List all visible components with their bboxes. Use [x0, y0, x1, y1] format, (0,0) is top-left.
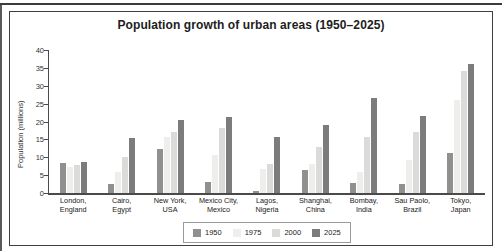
y-tick-mark: [44, 86, 48, 87]
bar-1950: [399, 184, 405, 193]
bar-1975: [212, 155, 218, 193]
bar-2025: [226, 117, 232, 194]
y-tick-label: 0: [22, 189, 44, 198]
y-tick-mark: [44, 193, 48, 194]
bar-group-shanghai-: [291, 48, 339, 193]
y-tick-label: 5: [22, 171, 44, 180]
x-axis-line: [48, 193, 485, 195]
legend-item-1975: 1975: [233, 228, 262, 237]
bar-2000: [316, 147, 322, 193]
bar-2000: [171, 132, 177, 193]
bar-1975: [115, 172, 121, 193]
bar-2025: [323, 125, 329, 193]
bar-2025: [81, 162, 87, 193]
bar-2000: [461, 71, 467, 193]
legend-label: 2025: [324, 228, 341, 237]
bar-group-sau-paolo-: [388, 48, 436, 193]
bar-group-lagos-: [243, 48, 291, 193]
bar-group-cairo-: [97, 48, 145, 193]
bar-1975: [67, 167, 73, 193]
bar-1950: [253, 191, 259, 193]
bar-2000: [122, 157, 128, 193]
category-label: Mexico City,Mexico: [194, 197, 242, 215]
category-label: Cairo,Egypt: [97, 197, 145, 215]
category-label: Bombay,India: [340, 197, 388, 215]
category-label: Sau Paolo,Brazil: [388, 197, 436, 215]
legend-swatch: [312, 229, 320, 237]
bar-group-mexico-city-: [194, 48, 242, 193]
bar-1950: [157, 149, 163, 193]
bar-1950: [350, 183, 356, 193]
bar-group-tokyo-: [437, 48, 485, 193]
bar-1950: [60, 163, 66, 193]
y-tick-label: 10: [22, 153, 44, 162]
bar-2000: [74, 165, 80, 193]
category-label: London,England: [49, 197, 97, 215]
chart-frame: Population growth of urban areas (1950–2…: [9, 11, 493, 246]
category-label: Lagos,Nigeria: [243, 197, 291, 215]
bar-1975: [406, 160, 412, 193]
page-top-rule: [0, 3, 502, 5]
category-label: Tokyo,Japan: [437, 197, 485, 215]
y-tick-label: 35: [22, 64, 44, 73]
legend-label: 1950: [205, 228, 222, 237]
plot-area: Population (millions) 0510152025303540 L…: [10, 12, 492, 245]
category-label: Shanghai,China: [291, 197, 339, 215]
bar-group-bombay-: [340, 48, 388, 193]
y-tick-mark: [44, 139, 48, 140]
y-tick-mark: [44, 122, 48, 123]
bar-1950: [205, 182, 211, 193]
bar-1975: [309, 164, 315, 193]
bar-1950: [108, 184, 114, 193]
legend-swatch: [193, 229, 201, 237]
bar-2000: [413, 132, 419, 193]
y-tick-mark: [44, 104, 48, 105]
y-tick-label: 25: [22, 100, 44, 109]
legend-swatch: [272, 229, 280, 237]
y-tick-label: 30: [22, 82, 44, 91]
legend-item-1950: 1950: [193, 228, 222, 237]
y-tick-label: 20: [22, 118, 44, 127]
bar-group-london-: [49, 48, 97, 193]
y-tick-mark: [44, 157, 48, 158]
legend-item-2025: 2025: [312, 228, 341, 237]
bar-2000: [267, 164, 273, 193]
legend-item-2000: 2000: [272, 228, 301, 237]
bar-1975: [260, 169, 266, 193]
x-axis-labels: London,EnglandCairo,EgyptNew York,USAMex…: [49, 197, 485, 215]
bar-group-new-york-: [146, 48, 194, 193]
bar-2025: [274, 137, 280, 193]
y-tick-mark: [44, 68, 48, 69]
page-left-edge: [0, 5, 2, 251]
bar-2025: [420, 116, 426, 193]
bar-1975: [357, 172, 363, 193]
y-tick-mark: [44, 175, 48, 176]
bar-1975: [454, 100, 460, 193]
legend: 1950197520002025: [183, 222, 351, 243]
legend-swatch: [233, 229, 241, 237]
bar-2000: [219, 128, 225, 193]
bar-2025: [371, 98, 377, 193]
bar-2025: [468, 64, 474, 193]
bar-2025: [129, 138, 135, 193]
y-tick-label: 40: [22, 46, 44, 55]
category-label: New York,USA: [146, 197, 194, 215]
bar-1950: [447, 153, 453, 193]
y-tick-label: 15: [22, 135, 44, 144]
bar-2000: [364, 137, 370, 193]
bar-1950: [302, 170, 308, 193]
legend-label: 1975: [245, 228, 262, 237]
bar-groups: [49, 48, 485, 193]
chart-screenshot: Population growth of urban areas (1950–2…: [0, 0, 502, 251]
bar-1975: [164, 137, 170, 193]
bar-2025: [178, 120, 184, 193]
y-tick-mark: [44, 50, 48, 51]
legend-label: 2000: [284, 228, 301, 237]
